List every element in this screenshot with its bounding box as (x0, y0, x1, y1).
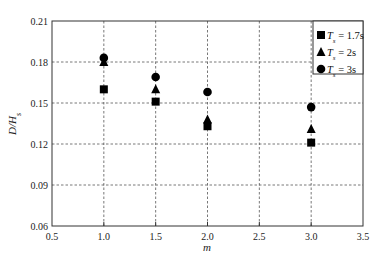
x-tick-label: 2.5 (253, 231, 266, 242)
square-marker (100, 85, 108, 93)
circle-marker (100, 54, 109, 63)
x-tick-label: 0.5 (46, 231, 59, 242)
x-tick-label: 1.0 (98, 231, 111, 242)
y-tick-label: 0.15 (31, 98, 49, 109)
y-tick-label: 0.18 (31, 57, 49, 68)
circle-marker (203, 88, 212, 97)
square-marker (152, 98, 160, 106)
triangle-marker (307, 124, 316, 133)
legend-entry-label: Ts = 3s (327, 64, 356, 79)
scatter-chart: 0.060.090.120.150.180.21 0.51.01.52.02.5… (0, 0, 380, 265)
triangle-marker (151, 84, 160, 93)
square-marker (204, 122, 212, 130)
legend-square-icon (317, 31, 325, 39)
x-axis-label: m (203, 241, 211, 253)
legend: Ts = 1.7sTs = 2sTs = 3s (313, 21, 364, 79)
y-axis-ticks: 0.060.090.120.150.180.21 (31, 16, 49, 232)
y-tick-label: 0.12 (31, 139, 49, 150)
x-axis-ticks: 0.51.01.52.02.53.03.5 (46, 222, 370, 242)
y-tick-label: 0.21 (31, 16, 49, 27)
y-tick-label: 0.06 (31, 221, 49, 232)
circle-marker (151, 73, 160, 82)
y-axis-label: D/Hs (6, 113, 23, 136)
triangle-marker (203, 114, 212, 123)
x-tick-label: 3.5 (357, 231, 370, 242)
x-tick-label: 3.0 (305, 231, 318, 242)
legend-circle-icon (317, 65, 326, 74)
circle-marker (307, 103, 316, 112)
square-marker (307, 139, 315, 147)
y-tick-label: 0.09 (31, 180, 49, 191)
x-tick-label: 1.5 (149, 231, 162, 242)
